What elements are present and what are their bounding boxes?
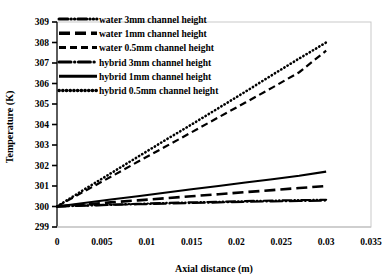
legend-label: water 3mm channel height <box>99 15 208 25</box>
x-tick-label: 0.02 <box>228 237 245 247</box>
y-tick-label: 299 <box>35 222 50 232</box>
y-tick-label: 302 <box>35 161 50 171</box>
x-tick-label: 0.03 <box>318 237 335 247</box>
legend-label: hybrid 1mm channel height <box>99 72 212 82</box>
temperature-vs-axial-distance-chart: 299300301302303304305306307308309 00.005… <box>0 0 391 278</box>
x-tick-label: 0.035 <box>360 237 382 247</box>
y-tick-label: 300 <box>35 202 50 212</box>
x-tick-label: 0.005 <box>91 237 113 247</box>
legend-label: water 0.5mm channel height <box>99 43 215 53</box>
legend-label: hybrid 3mm channel height <box>99 58 212 68</box>
y-tick-label: 305 <box>35 99 50 109</box>
y-tick-label: 308 <box>35 38 50 48</box>
y-tick-label: 306 <box>35 79 50 89</box>
x-tick-label: 0.025 <box>271 237 293 247</box>
x-axis-title: Axial distance (m) <box>175 263 253 275</box>
y-tick-label: 301 <box>35 181 50 191</box>
y-tick-label: 307 <box>35 58 50 68</box>
y-tick-label: 304 <box>35 120 50 130</box>
y-axis-title: Temperature (K) <box>4 91 16 164</box>
y-tick-label: 309 <box>35 17 50 27</box>
y-tick-label: 303 <box>35 140 50 150</box>
x-tick-label: 0 <box>55 237 60 247</box>
x-tick-label: 0.01 <box>138 237 155 247</box>
chart-canvas: 299300301302303304305306307308309 00.005… <box>0 0 391 278</box>
x-tick-label: 0.015 <box>181 237 203 247</box>
legend-label: water 1mm channel height <box>99 29 208 39</box>
legend-label: hybrid 0.5mm channel height <box>99 86 219 96</box>
